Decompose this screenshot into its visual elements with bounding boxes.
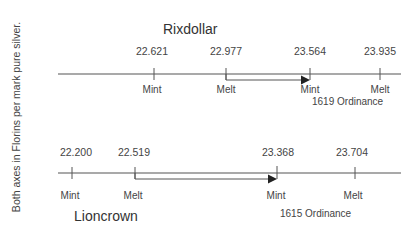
lioncrown-title: Lioncrown xyxy=(74,208,138,224)
rixdollar-title: Rixdollar xyxy=(163,21,217,37)
tick-label: Mint xyxy=(143,84,162,95)
tick-value: 23.935 xyxy=(364,45,396,57)
lioncrown-arrow-line xyxy=(135,173,270,179)
arrowhead-icon xyxy=(268,175,277,184)
tick-label: Melt xyxy=(124,190,143,201)
tick-label: Mint xyxy=(61,190,80,201)
tick-value: 22.519 xyxy=(118,146,150,158)
ordinance-label: 1619 Ordinance xyxy=(312,96,383,107)
tick-value: 23.704 xyxy=(336,146,368,158)
rixdollar-arrow-line xyxy=(226,74,303,80)
tick-value: 22.621 xyxy=(136,45,168,57)
tick-label: Melt xyxy=(344,190,363,201)
tick-value: 23.368 xyxy=(262,146,294,158)
ordinance-label: 1615 Ordinance xyxy=(280,208,351,219)
tick-value: 22.977 xyxy=(210,45,242,57)
tick-label: Mint xyxy=(267,190,286,201)
tick-label: Melt xyxy=(371,84,390,95)
tick-value: 23.564 xyxy=(294,45,326,57)
tick-label: Melt xyxy=(217,84,236,95)
tick-value: 22.200 xyxy=(60,146,92,158)
tick-label: Mint xyxy=(301,84,320,95)
